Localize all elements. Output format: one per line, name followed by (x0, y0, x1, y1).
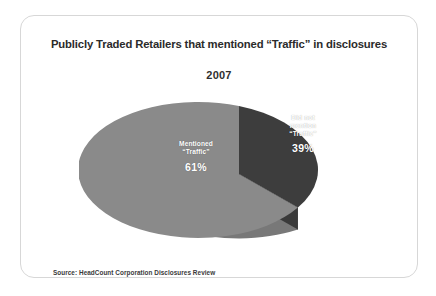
pie-label-mentioned-traffic: Mentioned “Traffic” 61% (149, 140, 243, 173)
pie-label-did-not-mention-traffic: Did not mention “Traffic” 39% (257, 114, 349, 155)
slide-card: Publicly Traded Retailers that mentioned… (20, 15, 418, 278)
pie-label-line-1: Mentioned (149, 140, 243, 148)
pie-value-did-not-mention-traffic: 39% (257, 142, 349, 154)
source-note: Source: HeadCount Corporation Disclosure… (53, 269, 215, 276)
pie-label-line-3: “Traffic” (257, 130, 349, 138)
pie-value-mentioned-traffic: 61% (149, 161, 243, 173)
page-title: Publicly Traded Retailers that mentioned… (21, 38, 417, 50)
pie-label-line-1: Did not (257, 114, 349, 122)
pie-label-line-2: “Traffic” (149, 148, 243, 156)
pie-label-line-2: mention (257, 122, 349, 130)
chart-year-subtitle: 2007 (21, 69, 417, 81)
